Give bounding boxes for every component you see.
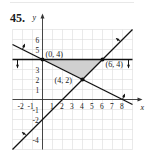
- y-axis-arrow-icon: [41, 14, 45, 19]
- y-tick-label: 1: [36, 86, 40, 95]
- x-tick-label: 2: [60, 102, 64, 111]
- x-axis-arrow-icon: [138, 98, 143, 102]
- x-tick-label: 8: [120, 102, 124, 111]
- arrowhead-icon: [127, 65, 130, 69]
- vertex-label: (0, 4): [46, 50, 64, 59]
- x-tick-label: 6: [100, 102, 104, 111]
- y-axis-label: y: [32, 13, 37, 22]
- x-tick-label: 7: [110, 102, 114, 111]
- y-tick-label: 6: [36, 36, 40, 45]
- y-tick-label: -1: [33, 106, 39, 115]
- linear-inequality-graph: xy-2-11234567865321-1-2-4(0, 4)(6, 4)(4,…: [0, 0, 156, 153]
- vertex-point: [101, 58, 105, 62]
- arrowhead-icon: [16, 65, 19, 69]
- y-tick-label: 3: [36, 66, 40, 75]
- x-tick-label: 3: [70, 102, 74, 111]
- vertex-label: (4, 2): [55, 76, 73, 85]
- x-tick-label: 5: [90, 102, 94, 111]
- x-tick-label: -2: [18, 102, 24, 111]
- vertex-label: (6, 4): [106, 60, 124, 69]
- vertex-point: [81, 78, 85, 82]
- y-tick-label: 5: [36, 46, 40, 55]
- y-tick-label: -4: [33, 136, 39, 145]
- y-tick-label: 2: [36, 76, 40, 85]
- x-tick-label: 4: [80, 102, 84, 111]
- vertex-point: [41, 58, 45, 62]
- x-axis-label: x: [140, 103, 145, 112]
